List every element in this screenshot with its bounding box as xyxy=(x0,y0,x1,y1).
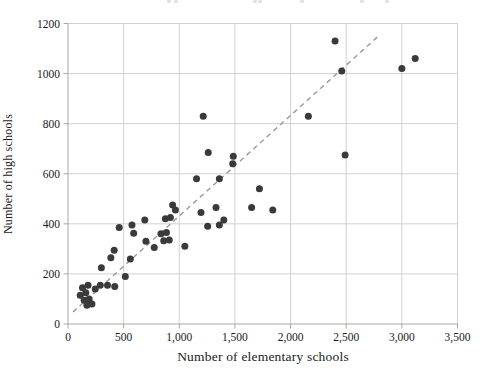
x-tick-label: 3,500 xyxy=(445,331,471,344)
data-point xyxy=(82,289,89,296)
y-tick-label: 800 xyxy=(43,118,61,130)
x-tick-label: 3,000 xyxy=(389,331,415,344)
data-point xyxy=(338,68,345,75)
y-tick-label: 400 xyxy=(43,218,61,230)
data-point xyxy=(248,204,255,211)
data-point xyxy=(85,282,92,289)
data-point xyxy=(111,283,118,290)
data-point xyxy=(205,149,212,156)
y-axis-title: Number of high schools xyxy=(1,102,17,247)
data-point xyxy=(204,223,211,230)
data-point xyxy=(398,65,405,72)
data-point xyxy=(130,230,137,237)
data-point xyxy=(332,38,339,45)
data-point xyxy=(220,217,227,224)
data-point xyxy=(213,204,220,211)
data-point xyxy=(197,209,204,216)
data-point xyxy=(230,153,237,160)
y-tick-label: 1000 xyxy=(37,68,60,80)
data-point xyxy=(200,113,207,120)
data-point xyxy=(172,207,179,214)
data-point xyxy=(193,175,200,182)
x-tick-label: 2,500 xyxy=(333,331,359,344)
trend-line xyxy=(73,37,378,312)
data-point xyxy=(305,113,312,120)
data-point xyxy=(128,222,135,229)
data-point xyxy=(167,214,174,221)
x-axis-title: Number of elementary schools xyxy=(68,349,458,367)
scatter-plot: 05001,0001,5002,0002,5003,0003,500020040… xyxy=(0,0,483,370)
x-tick-label: 1,500 xyxy=(222,331,248,344)
data-point xyxy=(98,264,105,271)
y-tick-label: 0 xyxy=(54,318,60,330)
data-point xyxy=(256,185,263,192)
data-point xyxy=(412,55,419,62)
data-point xyxy=(107,254,114,261)
data-point xyxy=(269,207,276,214)
data-point xyxy=(97,282,104,289)
data-point xyxy=(151,244,158,251)
data-point xyxy=(88,300,95,307)
data-point xyxy=(116,224,123,231)
data-point xyxy=(163,229,170,236)
data-point xyxy=(127,255,134,262)
data-point xyxy=(141,217,148,224)
x-tick-label: 0 xyxy=(65,331,71,343)
data-point xyxy=(216,175,223,182)
y-tick-label: 1200 xyxy=(37,18,60,30)
data-point xyxy=(229,160,236,167)
data-point xyxy=(111,247,118,254)
x-tick-label: 500 xyxy=(115,331,133,343)
x-tick-label: 2,000 xyxy=(278,331,304,344)
data-point xyxy=(104,282,111,289)
scatter-plot-figure: 05001,0001,5002,0002,5003,0003,500020040… xyxy=(0,0,483,370)
x-tick-label: 1,000 xyxy=(166,331,192,344)
data-point xyxy=(142,238,149,245)
data-point xyxy=(342,151,349,158)
data-point xyxy=(181,243,188,250)
data-point xyxy=(166,237,173,244)
y-tick-label: 600 xyxy=(43,168,61,180)
y-tick-label: 200 xyxy=(43,268,61,280)
data-point xyxy=(122,273,129,280)
